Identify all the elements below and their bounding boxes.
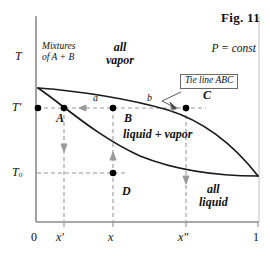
point-label-D: D — [122, 185, 131, 198]
y-axis-tick-T-zero: To — [12, 166, 22, 179]
arrow-a-head — [79, 105, 86, 111]
x-axis-tick-x-prime: x' — [56, 231, 64, 244]
pressure-condition-label: P = const — [211, 42, 256, 54]
mixtures-note-line2: of A + B — [42, 52, 74, 62]
point-origin-marker — [35, 105, 42, 112]
x-axis-tick-x-double-prime: x" — [178, 231, 188, 244]
callout-leader — [162, 92, 181, 109]
region-liquid-line2: liquid — [199, 195, 228, 209]
arrow-down-A — [61, 144, 67, 152]
y-axis-tick-T-prime: T' — [12, 101, 21, 114]
arrow-up-D — [110, 152, 116, 160]
point-label-C: C — [203, 89, 211, 102]
tie-line-callout: Tie line ABC — [180, 74, 238, 89]
y-axis-label-T: T — [15, 50, 22, 63]
point-C — [183, 105, 190, 112]
region-vapor-line1: all — [114, 40, 127, 54]
point-B — [110, 105, 117, 112]
process-arrows — [61, 144, 189, 184]
segment-label-a: a — [93, 93, 98, 104]
y-axis-tick-T-zero-base: T — [12, 165, 19, 179]
x-axis-tick-1: 1 — [253, 231, 259, 244]
region-label-liquid-plus-vapor: liquid + vapor — [123, 128, 193, 141]
point-D — [110, 170, 117, 177]
figure-caption: Fig. 11 — [221, 11, 260, 25]
y-axis-tick-T-zero-sub: o — [19, 170, 23, 179]
region-vapor-line2: vapor — [106, 53, 134, 67]
region-label-all-vapor: all vapor — [106, 41, 134, 68]
mixtures-note: Mixtures of A + B — [42, 41, 75, 63]
x-axis-tick-x: x — [108, 231, 113, 244]
segment-label-b: b — [147, 93, 152, 104]
phase-diagram-figure: Fig. 11 P = const Mixtures of A + B all … — [0, 0, 270, 262]
point-label-A: A — [56, 112, 64, 125]
x-axis-tick-0: 0 — [31, 231, 37, 244]
point-label-B: B — [124, 112, 132, 125]
region-liquid-line1: all — [207, 182, 220, 196]
mixtures-note-line1: Mixtures — [42, 41, 75, 51]
region-label-all-liquid: all liquid — [199, 183, 228, 210]
arrow-down-C — [183, 176, 189, 184]
